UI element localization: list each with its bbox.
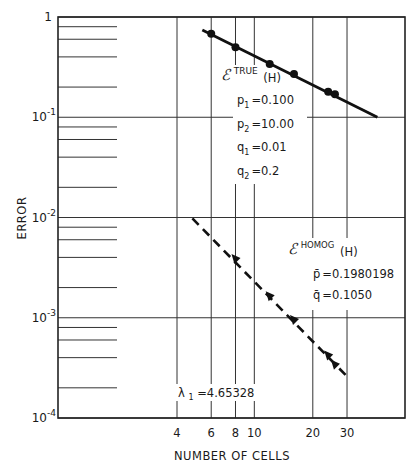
y-tick-label: 1 [44,10,52,24]
true-param-name: p [237,117,244,131]
homog-param-name: q̄ [313,288,320,302]
homog-data-point [324,351,333,361]
true-data-point [207,30,215,38]
true-param-value: =0.2 [251,164,279,178]
minor-ticks [58,27,117,388]
true-param-value: =0.100 [251,93,294,107]
y-tick-label: 10-2 [32,208,56,225]
y-tick-base: 10 [32,411,47,425]
homog-param: p̄=0.1980198 [313,267,394,281]
y-axis-label: ERROR [15,197,29,240]
true-param-name: q [237,140,244,154]
true-data-point [331,90,339,98]
y-tick-label: 10-1 [32,107,56,124]
y-tick-base: 10 [32,311,47,325]
homog-script-e: ℰ [288,240,299,258]
true-sup: TRUE [233,66,258,76]
lambda-sub: 1 [188,393,193,402]
homog-param-name: p̄ [313,267,320,281]
y-tick-exp: -3 [47,308,56,318]
x-tick-labels: 468102030 [173,426,354,440]
homog-data-point [331,360,340,370]
true-data-point [266,60,274,68]
true-suffix: (H) [263,71,281,85]
true-param-sub: 2 [244,125,249,134]
true-data-point [231,43,239,51]
x-tick-label: 20 [305,426,320,440]
true-param-name: q [237,164,244,178]
homog-param-value: =0.1980198 [322,267,394,281]
true-param-name: p [237,93,244,107]
y-tick-base: 10 [32,110,47,124]
y-tick-labels: 110-110-210-310-4 [32,10,57,425]
y-tick-exp: -2 [47,208,56,218]
x-tick-label: 10 [247,426,262,440]
homog-param: q̄=0.1050 [313,288,372,302]
true-param-sub: 2 [244,172,249,181]
y-tick-exp: -1 [47,107,56,117]
x-tick-label: 6 [208,426,215,440]
x-tick-label: 30 [340,426,355,440]
x-tick-label: 4 [173,426,180,440]
error-vs-cells-chart: 110-110-210-310-4 468102030 NUMBER OF CE… [0,0,417,473]
y-tick-label: 10-4 [32,408,57,425]
y-tick-base: 1 [44,10,52,24]
x-tick-label: 8 [232,426,239,440]
y-tick-base: 10 [32,211,47,225]
true-param-sub: 1 [244,148,249,157]
lambda-value: =4.65328 [197,386,254,400]
homog-suffix: (H) [340,245,358,259]
true-data-point [290,70,298,78]
true-param-value: =0.01 [251,140,286,154]
y-tick-exp: -4 [47,408,56,418]
homog-param-value: =0.1050 [322,288,372,302]
lambda-symbol: λ [178,386,185,400]
x-axis-label: NUMBER OF CELLS [174,449,290,463]
homog-sup: HOMOG [301,240,335,250]
true-param-value: =10.00 [251,117,294,131]
y-tick-label: 10-3 [32,308,56,325]
true-param-sub: 1 [244,101,249,110]
true-script-e: ℰ [221,66,232,84]
